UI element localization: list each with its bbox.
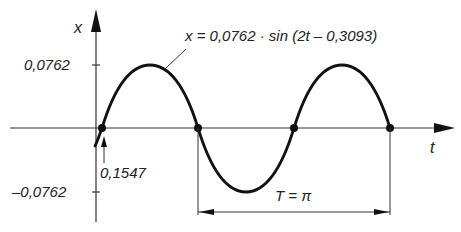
phase-shift-arrow-icon [101, 136, 107, 147]
zero-crossing-dot [290, 124, 298, 132]
x-axis-arrow-icon [91, 9, 101, 32]
t-axis-label: t [430, 140, 434, 156]
period-arrow-right-icon [374, 209, 389, 215]
t-axis-arrow-icon [434, 123, 455, 133]
y-tick-label-neg: –0,0762 [12, 184, 66, 199]
x-axis-label: x [74, 20, 82, 36]
period-arrow-left-icon [199, 209, 214, 215]
period-label: T = π [275, 188, 311, 203]
equation-label: x = 0,0762 · sin (2t – 0,3093) [185, 28, 377, 43]
zero-crossing-dot [98, 124, 106, 132]
phase-shift-label: 0,1547 [100, 165, 146, 180]
equation-leader-line [165, 49, 186, 69]
y-tick-label-pos: 0,0762 [24, 57, 70, 72]
